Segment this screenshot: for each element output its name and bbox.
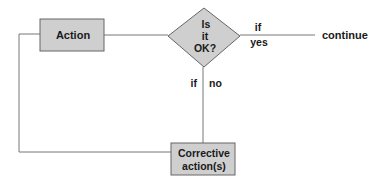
decision-label-line-3: OK? xyxy=(194,42,216,54)
yes-edge-label-if: if xyxy=(255,21,262,33)
corrective-label-line-2: action(s) xyxy=(182,160,226,172)
no-edge-label-no: no xyxy=(209,77,222,89)
decision-node: Is it OK? xyxy=(168,8,240,67)
continue-label: continue xyxy=(322,29,368,41)
action-label: Action xyxy=(56,29,91,41)
decision-label-line-1: Is xyxy=(202,18,211,30)
loop-edge xyxy=(19,34,171,152)
flowchart: Action Is it OK? if yes continue if no C… xyxy=(0,0,381,180)
decision-label-line-2: it xyxy=(202,30,209,42)
yes-edge-label-yes: yes xyxy=(250,36,268,48)
corrective-label-line-1: Corrective xyxy=(178,147,230,159)
action-node: Action xyxy=(40,19,104,51)
no-edge-label-if: if xyxy=(191,77,198,89)
corrective-action-node: Corrective action(s) xyxy=(171,143,235,175)
